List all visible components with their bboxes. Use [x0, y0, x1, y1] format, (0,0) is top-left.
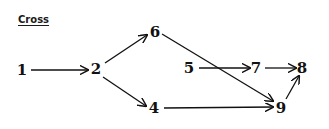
- edge-9-8: [286, 76, 299, 99]
- edge-4-9: [164, 107, 273, 108]
- node-8: 8: [297, 61, 307, 76]
- node-2: 2: [91, 62, 101, 77]
- node-1: 1: [17, 63, 27, 78]
- node-4: 4: [149, 101, 159, 116]
- diagram-canvas: Cross 1 2 6 4 5 7 8 9: [0, 0, 329, 129]
- node-6: 6: [150, 25, 160, 40]
- node-9: 9: [276, 101, 286, 116]
- edge-2-4: [103, 77, 146, 106]
- node-7: 7: [251, 61, 261, 76]
- node-5: 5: [184, 61, 194, 76]
- diagram-title: Cross: [18, 14, 49, 25]
- edge-2-6: [105, 35, 147, 63]
